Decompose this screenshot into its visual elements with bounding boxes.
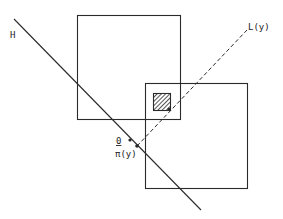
diagram: H L(y) 0 π(y) (0, 0, 283, 219)
label-l: L(y) (248, 22, 270, 32)
label-pi: π(y) (115, 149, 137, 159)
point-corner (167, 107, 170, 110)
point-pi-y (135, 144, 139, 148)
label-h: H (10, 30, 15, 40)
point-o (128, 138, 131, 141)
line-h (14, 19, 201, 210)
label-o: 0 (116, 136, 121, 146)
line-l (137, 30, 247, 146)
